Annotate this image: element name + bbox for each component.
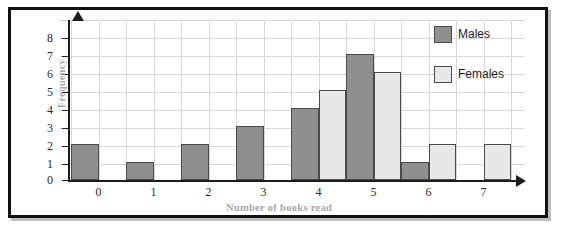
bar-males-5 bbox=[346, 54, 374, 180]
bar-males-1 bbox=[126, 162, 154, 180]
y-tick-label-2: 2 bbox=[33, 139, 53, 154]
x-axis-title: Number of books read bbox=[59, 202, 499, 213]
gridline-vertical bbox=[209, 20, 210, 182]
x-axis-line bbox=[68, 180, 518, 182]
x-tick-label-0: 0 bbox=[87, 185, 111, 200]
y-tick-label-1: 1 bbox=[33, 157, 53, 172]
y-tick-8 bbox=[62, 38, 69, 39]
bar-females-7 bbox=[484, 144, 512, 180]
x-tick-label-6: 6 bbox=[417, 185, 441, 200]
chart-figure-frame: 8 7 6 5 4 3 2 1 0 0 1 2 3 4 5 6 7 Freque… bbox=[8, 7, 548, 218]
gridline-vertical bbox=[401, 20, 402, 182]
y-tick-3 bbox=[62, 128, 69, 129]
gridline-vertical bbox=[511, 20, 512, 182]
y-axis-arrow-icon bbox=[72, 11, 84, 21]
y-tick-label-5: 5 bbox=[33, 85, 53, 100]
y-tick-7 bbox=[62, 56, 69, 57]
x-tick-label-7: 7 bbox=[472, 185, 496, 200]
bar-males-6 bbox=[401, 162, 429, 180]
bar-males-3 bbox=[236, 126, 264, 180]
gridline-vertical bbox=[264, 20, 265, 182]
x-tick-label-3: 3 bbox=[252, 185, 276, 200]
y-tick-label-7: 7 bbox=[33, 49, 53, 64]
bar-females-4 bbox=[319, 90, 347, 180]
x-tick-label-5: 5 bbox=[362, 185, 386, 200]
y-tick-4 bbox=[62, 110, 69, 111]
x-axis-arrow-icon bbox=[516, 175, 526, 187]
y-axis-title: Frequency bbox=[56, 59, 67, 108]
gridline-vertical bbox=[126, 20, 127, 182]
bar-males-2 bbox=[181, 144, 209, 180]
gridline-vertical bbox=[99, 20, 100, 182]
y-tick-0 bbox=[62, 180, 69, 181]
bar-females-5 bbox=[374, 72, 402, 180]
x-tick-label-1: 1 bbox=[142, 185, 166, 200]
y-tick-label-6: 6 bbox=[33, 67, 53, 82]
bar-females-6 bbox=[429, 144, 457, 180]
y-tick-label-4: 4 bbox=[33, 103, 53, 118]
y-tick-label-0: 0 bbox=[33, 173, 53, 188]
plot-area: 8 7 6 5 4 3 2 1 0 0 1 2 3 4 5 6 7 Freque… bbox=[59, 20, 525, 182]
x-tick-label-4: 4 bbox=[307, 185, 331, 200]
y-tick-1 bbox=[62, 164, 69, 165]
legend-swatch-females-icon bbox=[434, 66, 452, 83]
y-tick-2 bbox=[62, 146, 69, 147]
bar-males-0 bbox=[71, 144, 99, 180]
x-tick-label-2: 2 bbox=[197, 185, 221, 200]
chart-figure-inner: 8 7 6 5 4 3 2 1 0 0 1 2 3 4 5 6 7 Freque… bbox=[11, 10, 545, 215]
y-axis-line bbox=[68, 20, 70, 182]
y-tick-label-3: 3 bbox=[33, 121, 53, 136]
y-tick-label-8: 8 bbox=[33, 31, 53, 46]
gridline-vertical bbox=[154, 20, 155, 182]
gridline-vertical bbox=[456, 20, 457, 182]
legend-label-females: Females bbox=[458, 67, 504, 81]
legend-label-males: Males bbox=[458, 27, 490, 41]
bar-males-4 bbox=[291, 108, 319, 180]
legend-swatch-males-icon bbox=[434, 26, 452, 43]
